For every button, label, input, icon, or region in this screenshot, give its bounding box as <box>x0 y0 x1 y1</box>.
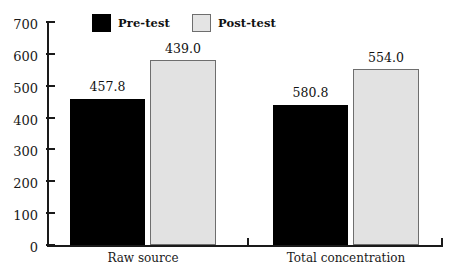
bar-post-test: 439.0 <box>150 60 216 245</box>
y-axis-tick-label: 400 <box>13 112 38 127</box>
y-axis-tick-label: 700 <box>13 17 38 32</box>
y-axis-tick-label: 200 <box>13 176 38 191</box>
y-axis-tick-label: 0 <box>30 240 38 255</box>
bar-pre-test: 457.8 <box>70 99 145 245</box>
y-axis-tick-mark <box>46 21 55 23</box>
y-axis-tick-mark <box>46 85 55 87</box>
y-axis-tick-label: 500 <box>13 80 38 95</box>
bar-chart: Pre-test Post-test 700600500400300200100… <box>0 0 472 279</box>
bar-value-label: 580.8 <box>293 85 329 100</box>
y-axis-tick-mark <box>46 117 55 119</box>
plot-area: 7006005004003002001000 457.8439.0580.855… <box>47 22 443 247</box>
x-axis-category-label: Total concentration <box>287 251 405 265</box>
y-axis-tick-mark <box>46 53 55 55</box>
y-axis-tick-mark <box>46 244 55 246</box>
y-axis-tick-label: 600 <box>13 48 38 63</box>
x-axis-tick-mark <box>247 238 249 247</box>
y-axis-tick-label: 100 <box>13 208 38 223</box>
x-axis-line <box>47 245 443 247</box>
bar-value-label: 457.8 <box>90 79 126 94</box>
y-axis-tick-mark <box>46 148 55 150</box>
y-axis-tick-mark <box>46 212 55 214</box>
x-axis-category-label: Raw source <box>107 251 178 265</box>
bar-value-label: 554.0 <box>368 50 404 65</box>
bar-post-test: 554.0 <box>353 69 419 245</box>
y-axis-tick-label: 300 <box>13 144 38 159</box>
bar-pre-test: 580.8 <box>273 105 348 245</box>
y-axis-tick-mark <box>46 180 55 182</box>
x-axis-tick-mark <box>441 238 443 247</box>
bar-value-label: 439.0 <box>165 41 201 56</box>
